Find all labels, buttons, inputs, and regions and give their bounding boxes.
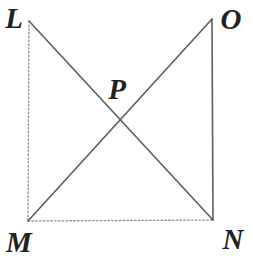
vertex-label-O: O: [221, 3, 242, 35]
edge-M-N: [28, 220, 213, 221]
edge-L-M: [28, 21, 29, 221]
vertex-label-N: N: [222, 223, 245, 255]
edge-O-N: [212, 19, 213, 220]
geometry-figure-page: LOPMN: [0, 0, 253, 269]
geometry-diagram: LOPMN: [0, 0, 253, 269]
vertex-label-M: M: [5, 226, 33, 258]
vertex-label-L: L: [4, 2, 23, 34]
vertex-label-P: P: [107, 73, 126, 105]
